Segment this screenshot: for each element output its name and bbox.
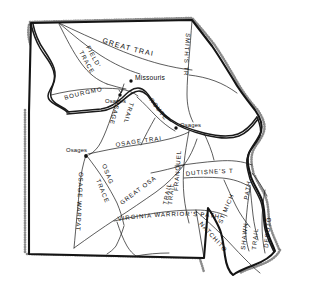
settlement-dot-osages-north bbox=[118, 93, 121, 96]
settlement-dot-osages-west bbox=[84, 154, 88, 158]
settlement-label-missouris: Missouris bbox=[135, 74, 165, 81]
settlement-dot-osages-central bbox=[174, 126, 177, 129]
settlement-label-osages-north: Osages bbox=[105, 98, 126, 104]
missouri-indian-trails-map: GREAT TRAIL FIELD'S TRACE SMITH'S TRAIL … bbox=[0, 0, 324, 294]
map-canvas: GREAT TRAIL FIELD'S TRACE SMITH'S TRAIL … bbox=[0, 0, 324, 294]
settlement-label-osages-west: Osages bbox=[66, 147, 87, 153]
settlement-label-osages-central: Osages bbox=[180, 122, 201, 128]
settlement-dot-missouris bbox=[129, 79, 132, 82]
